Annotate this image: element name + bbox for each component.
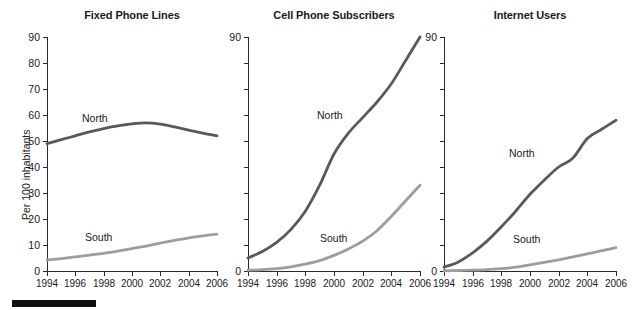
y-tick-label-90: 90	[208, 32, 241, 42]
y-tick-label-10: 10	[7, 240, 40, 250]
series-line-south	[47, 234, 217, 260]
y-tick-label-70: 70	[7, 84, 40, 94]
series-lines	[444, 0, 632, 300]
y-tick-label-0: 0	[404, 266, 437, 276]
series-lines	[47, 0, 241, 300]
y-tick-label-60: 60	[7, 110, 40, 120]
series-line-north	[248, 37, 420, 258]
series-label-south: South	[85, 232, 112, 243]
chart-panel-fixed-phone-lines: Fixed Phone Lines01020304050607080901994…	[0, 0, 237, 290]
y-tick-label-0: 0	[7, 266, 40, 276]
y-tick-label-80: 80	[7, 58, 40, 68]
series-label-north: North	[509, 148, 535, 159]
footer-rule	[12, 300, 96, 307]
series-label-south: South	[320, 233, 347, 244]
series-label-south: South	[513, 234, 540, 245]
y-tick-label-90: 90	[404, 32, 437, 42]
series-line-south	[444, 248, 616, 271]
series-line-north	[47, 123, 217, 144]
y-tick-label-90: 90	[7, 32, 40, 42]
series-lines	[248, 0, 444, 300]
series-line-south	[248, 185, 420, 270]
series-line-north	[444, 120, 616, 267]
y-tick-label-0: 0	[208, 266, 241, 276]
series-label-north: North	[317, 110, 343, 121]
chart-panel-cell-phone-subscribers: Cell Phone Subscribers090199419961998200…	[228, 0, 440, 290]
chart-panel-internet-users: Internet Users09019941996199820002002200…	[423, 0, 632, 290]
y-axis-title: Per 100 inhabitants	[20, 130, 32, 220]
series-label-north: North	[82, 113, 108, 124]
